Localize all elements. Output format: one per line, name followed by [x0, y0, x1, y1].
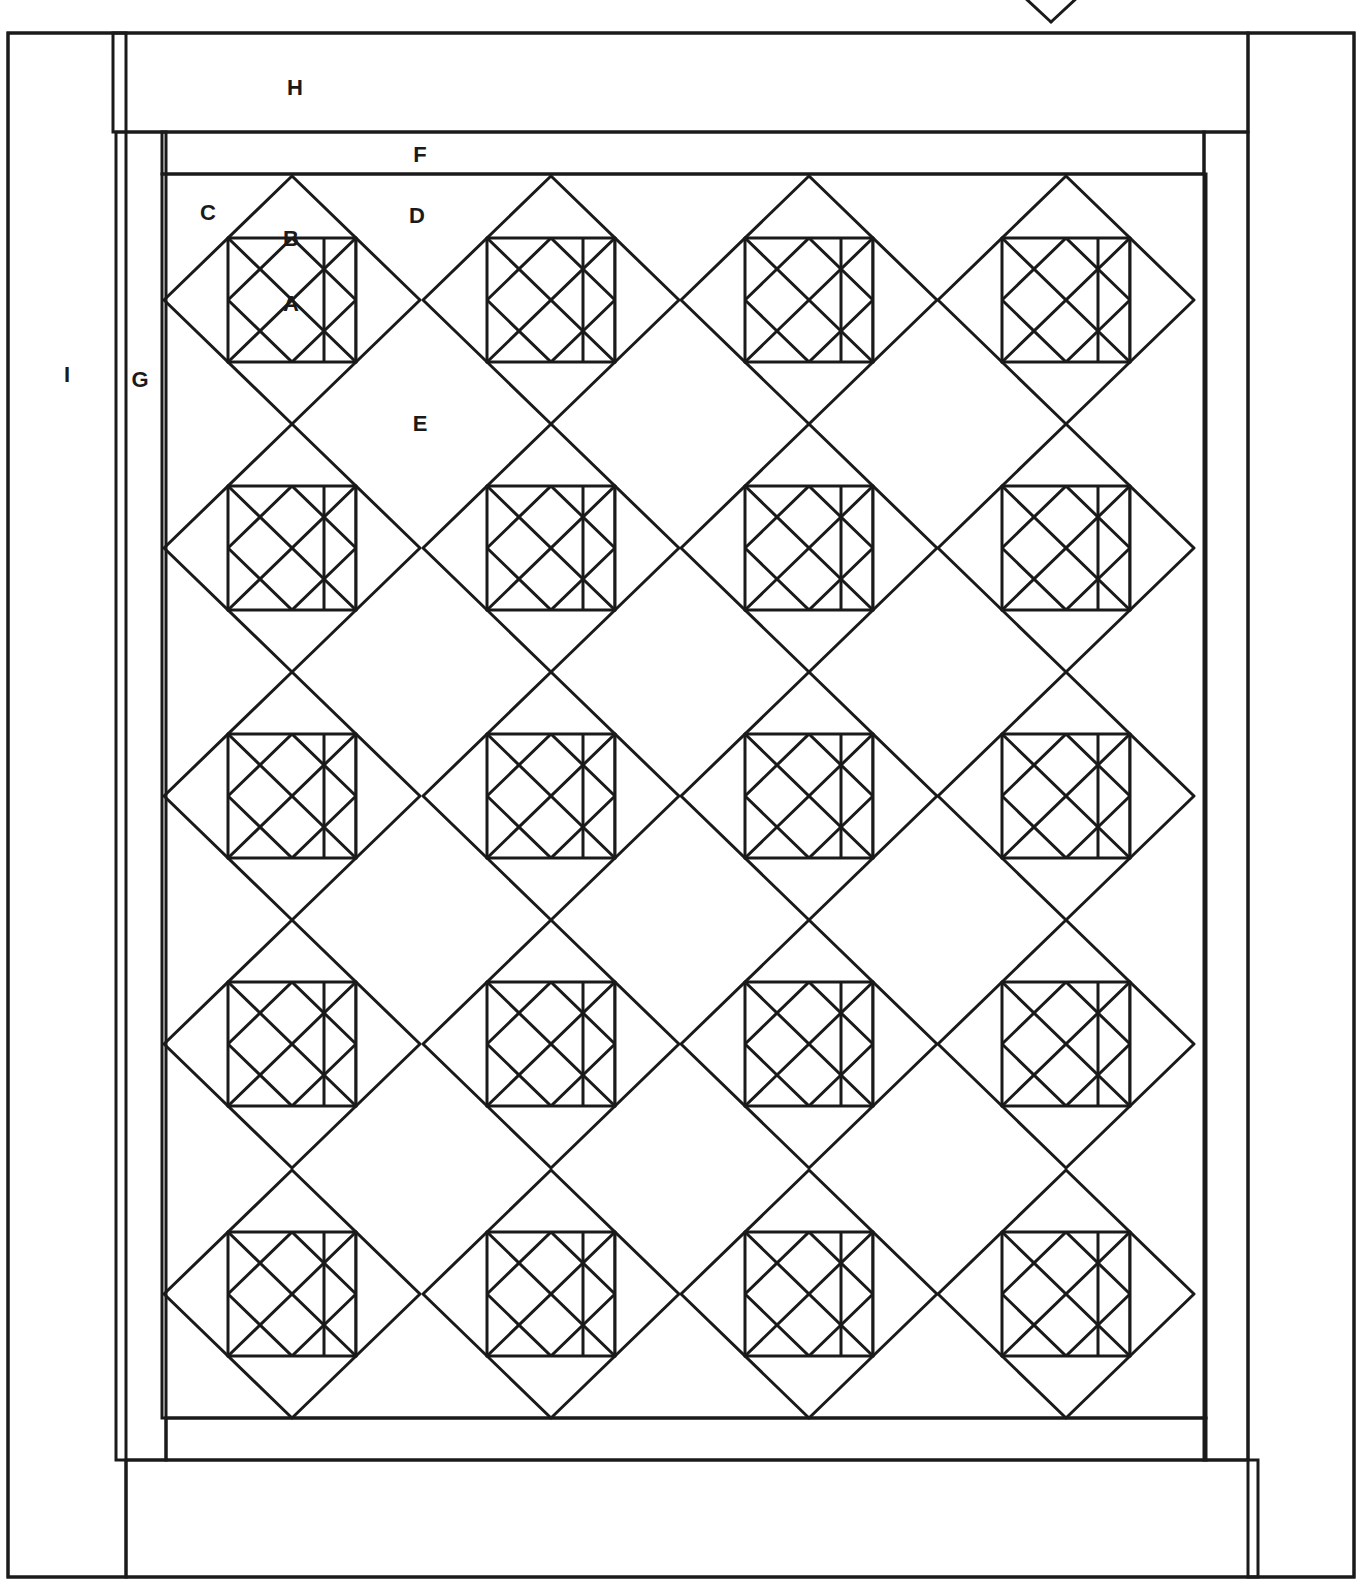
border-bottom [126, 1460, 1258, 1577]
block-grid [196, 455, 388, 765]
border-left-I [8, 33, 126, 1577]
label-g: G [131, 367, 148, 392]
quilt-block [423, 176, 679, 517]
block-grid [970, 703, 1162, 1013]
outer-border [8, 33, 1354, 1577]
block-grid [455, 207, 647, 517]
label-h: H [287, 75, 303, 100]
label-b: B [283, 226, 299, 251]
quilt-block [681, 672, 937, 1013]
strip-top-F [162, 132, 1204, 174]
block-grid [970, 1201, 1162, 1511]
label-e: E [413, 411, 428, 436]
quilt-block [423, 920, 679, 1261]
block-grid [970, 207, 1162, 517]
block-grid [196, 1201, 388, 1511]
quilt-block [938, 424, 1194, 765]
border-right [1248, 33, 1354, 1577]
quilt-block [164, 672, 420, 1013]
strip-bottom [166, 1418, 1206, 1460]
block-grid [196, 207, 388, 517]
block-grid [196, 951, 388, 1261]
quilt-block [681, 176, 937, 517]
quilt-block [938, 672, 1194, 1013]
quilt-block [164, 920, 420, 1261]
block-grid [455, 1201, 647, 1511]
label-i: I [64, 362, 70, 387]
quilt-diagram: HFCBDAIGE [0, 0, 1358, 1580]
block-grid [713, 207, 905, 517]
quilt-frame [8, 33, 1354, 1577]
label-c: C [200, 200, 216, 225]
block-grid [196, 703, 388, 1013]
label-a: A [283, 291, 299, 316]
pieced-blocks [164, 0, 1194, 1511]
block-grid [455, 703, 647, 1013]
quilt-block [423, 424, 679, 765]
block-grid [713, 455, 905, 765]
block-grid [455, 455, 647, 765]
block-grid [713, 951, 905, 1261]
block-grid [970, 951, 1162, 1261]
label-f: F [413, 142, 426, 167]
block-grid [713, 703, 905, 1013]
overflow-diamond-edge [1023, 0, 1051, 22]
label-d: D [409, 203, 425, 228]
sashing-right [1204, 132, 1248, 1460]
quilt-block [681, 920, 937, 1261]
quilt-block [938, 920, 1194, 1261]
block-grid [455, 951, 647, 1261]
sashing-left-G [116, 132, 166, 1460]
quilt-block [164, 424, 420, 765]
quilt-block [423, 672, 679, 1013]
block-grid [713, 1201, 905, 1511]
overflow-diamond-edge [1051, 0, 1079, 22]
block-grid [970, 455, 1162, 765]
quilt-block [938, 176, 1194, 517]
border-top-H [113, 33, 1248, 132]
quilt-block [681, 424, 937, 765]
